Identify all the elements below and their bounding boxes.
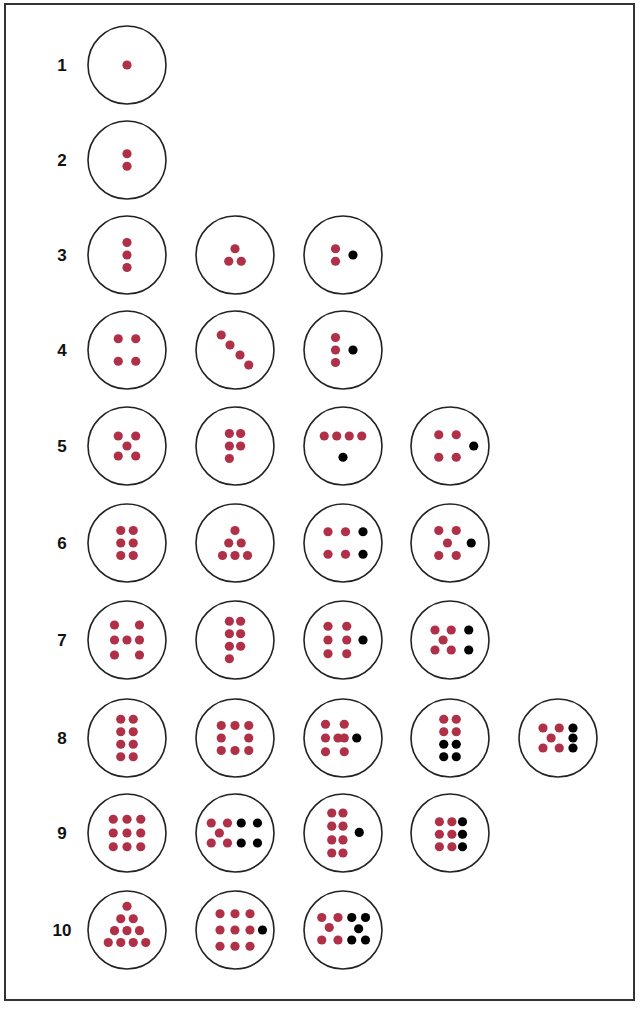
- red-dot: [230, 526, 239, 535]
- red-dot: [342, 635, 351, 644]
- red-dot: [217, 733, 226, 742]
- red-dot: [452, 715, 461, 724]
- red-dot: [135, 635, 144, 644]
- red-dot: [538, 723, 547, 732]
- red-dot: [341, 550, 350, 559]
- red-dot: [207, 838, 216, 847]
- red-dot: [141, 938, 150, 947]
- red-dot: [443, 538, 452, 547]
- row-label: 5: [57, 437, 66, 456]
- red-dot: [327, 835, 336, 844]
- red-dot: [116, 752, 125, 761]
- red-dot: [236, 629, 245, 638]
- red-dot: [435, 817, 444, 826]
- red-dot: [129, 715, 138, 724]
- red-dot: [323, 550, 332, 559]
- pattern-circle: [304, 794, 382, 872]
- red-dot: [215, 925, 224, 934]
- black-dot: [439, 740, 448, 749]
- dot-pattern: [88, 891, 166, 969]
- red-dot: [116, 551, 125, 560]
- dot-pattern: [88, 601, 166, 679]
- red-dot: [129, 727, 138, 736]
- dot-pattern: [88, 794, 166, 872]
- red-dot: [217, 746, 226, 755]
- red-dot: [129, 914, 138, 923]
- pattern-circle: [196, 407, 274, 485]
- red-dot: [244, 746, 253, 755]
- red-dot: [439, 727, 448, 736]
- pattern-circle: [304, 504, 382, 582]
- black-dot: [568, 723, 577, 732]
- black-dot: [258, 925, 267, 934]
- black-dot: [347, 935, 356, 944]
- red-dot: [215, 942, 224, 951]
- red-dot: [225, 429, 234, 438]
- red-dot: [244, 733, 253, 742]
- red-dot: [338, 835, 347, 844]
- dot-pattern: [88, 311, 166, 389]
- red-dot: [327, 848, 336, 857]
- black-dot: [253, 838, 262, 847]
- red-dot: [439, 715, 448, 724]
- row-1: 1: [57, 26, 166, 104]
- black-dot: [358, 635, 367, 644]
- red-dot: [122, 441, 131, 450]
- red-dot: [323, 527, 332, 536]
- red-dot: [340, 747, 349, 756]
- red-dot: [136, 815, 145, 824]
- red-dot: [131, 451, 140, 460]
- red-dot: [122, 250, 131, 259]
- dot-pattern: [196, 504, 274, 582]
- red-dot: [136, 828, 145, 837]
- dot-pattern: [304, 216, 382, 294]
- red-dot: [122, 926, 131, 935]
- dot-pattern: [196, 794, 274, 872]
- dot-pattern: [304, 699, 382, 777]
- dot-pattern: [519, 699, 597, 777]
- red-dot: [110, 926, 119, 935]
- red-dot: [218, 551, 227, 560]
- black-dot: [352, 733, 361, 742]
- black-dot: [452, 740, 461, 749]
- dot-pattern: [196, 216, 274, 294]
- red-dot: [225, 441, 234, 450]
- red-dot: [122, 815, 131, 824]
- black-dot: [348, 250, 357, 259]
- dot-pattern: [304, 891, 382, 969]
- red-dot: [331, 333, 340, 342]
- red-dot: [538, 743, 547, 752]
- red-dot: [122, 902, 131, 911]
- pattern-circle: [88, 504, 166, 582]
- black-dot: [568, 733, 577, 742]
- dot-pattern: [88, 407, 166, 485]
- dot-pattern: [304, 601, 382, 679]
- black-dot: [568, 743, 577, 752]
- red-dot: [131, 431, 140, 440]
- red-dot: [357, 431, 366, 440]
- red-dot: [447, 830, 456, 839]
- black-dot: [355, 828, 364, 837]
- red-dot: [225, 629, 234, 638]
- dot-pattern: [411, 407, 489, 485]
- red-dot: [237, 257, 246, 266]
- red-dot: [129, 752, 138, 761]
- red-dot: [109, 815, 118, 824]
- red-dot: [338, 822, 347, 831]
- red-dot: [225, 454, 234, 463]
- red-dot: [447, 842, 456, 851]
- black-dot: [237, 838, 246, 847]
- row-label: 8: [57, 729, 66, 748]
- dot-pattern: [304, 311, 382, 389]
- pattern-circle: [304, 216, 382, 294]
- black-dot: [464, 625, 473, 634]
- red-dot: [555, 723, 564, 732]
- row-label: 6: [57, 534, 66, 553]
- red-dot: [447, 817, 456, 826]
- dot-pattern: [304, 407, 382, 485]
- red-dot: [122, 842, 131, 851]
- row-4: 4: [57, 311, 382, 389]
- red-dot: [224, 257, 233, 266]
- black-dot: [464, 645, 473, 654]
- black-dot: [361, 913, 370, 922]
